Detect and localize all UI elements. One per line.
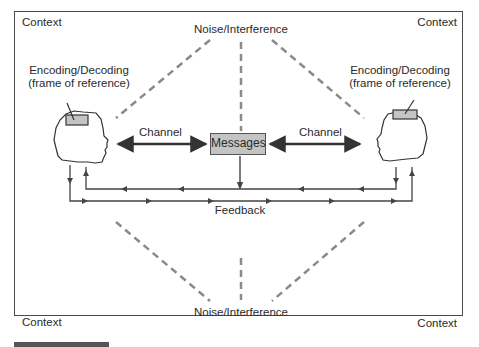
context-label-bottom-left: Context (22, 316, 62, 329)
diagram-lines (0, 0, 479, 347)
channel-label-left: Channel (139, 126, 182, 139)
left-encoding-line2: (frame of reference) (24, 77, 134, 90)
right-encoding-label: Encoding/Decoding (frame of reference) (345, 64, 455, 90)
right-head-icon (377, 100, 427, 161)
noise-label-top: Noise/Interference (191, 23, 291, 36)
right-encoding-line1: Encoding/Decoding (345, 64, 455, 77)
left-head-icon (54, 103, 108, 163)
left-encoding-label: Encoding/Decoding (frame of reference) (24, 64, 134, 90)
channel-label-right: Channel (299, 126, 342, 139)
context-label-top-right: Context (417, 16, 457, 29)
noise-label-bottom: Noise/Interference (191, 306, 291, 319)
feedback-label: Feedback (205, 204, 275, 217)
messages-box: Messages (210, 133, 266, 155)
left-encoding-line1: Encoding/Decoding (24, 64, 134, 77)
caption-bar (14, 342, 109, 347)
noise-lines-top (116, 40, 364, 131)
noise-lines-bottom (116, 222, 364, 301)
right-encoding-line2: (frame of reference) (345, 77, 455, 90)
feedback-arrowheads (67, 170, 415, 204)
context-label-top-left: Context (22, 16, 62, 29)
context-label-bottom-right: Context (417, 317, 457, 330)
feedback-lines (70, 165, 412, 201)
